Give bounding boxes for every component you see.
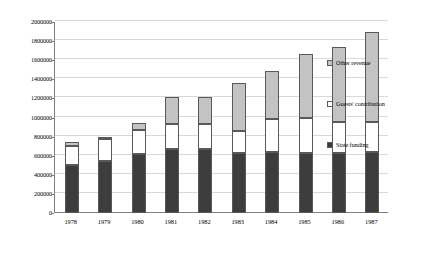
- bar-segment-other-revenue: [365, 32, 379, 123]
- y-axis-tick-mark: [51, 22, 54, 23]
- bar-segment-state-funding: [299, 153, 313, 213]
- bar-group: [98, 22, 112, 213]
- legend-label: Other revenue: [336, 60, 371, 66]
- y-axis-tick-label: 1000000: [0, 114, 52, 120]
- y-axis-tick-label: 1200000: [0, 95, 52, 101]
- y-axis-tick-mark: [51, 137, 54, 138]
- bar-segment-other-revenue: [299, 54, 313, 117]
- y-axis-tick-label: 0: [0, 210, 52, 216]
- bar-segment-guests-contribution: [198, 124, 212, 149]
- gridline: [55, 20, 388, 21]
- bar-group: [232, 22, 246, 213]
- bar-group: [165, 22, 179, 213]
- y-axis-tick-mark: [51, 118, 54, 119]
- bar-segment-state-funding: [65, 165, 79, 213]
- bar-segment-other-revenue: [98, 137, 112, 139]
- bar-group: [198, 22, 212, 213]
- bar-segment-state-funding: [98, 161, 112, 213]
- bar-group: [132, 22, 146, 213]
- legend-item: Other revenue: [327, 60, 371, 66]
- y-axis-tick-label: 200000: [0, 191, 52, 197]
- bar-segment-state-funding: [165, 149, 179, 213]
- y-axis-tick-mark: [51, 175, 54, 176]
- bar-segment-state-funding: [198, 149, 212, 213]
- y-axis-tick-label: 600000: [0, 153, 52, 159]
- stacked-bar-chart: 0200000400000600000800000100000012000001…: [0, 0, 438, 253]
- bar-segment-guests-contribution: [65, 146, 79, 165]
- bar-group: [365, 22, 379, 213]
- y-axis-tick-mark: [51, 156, 54, 157]
- legend-swatch-icon: [327, 142, 333, 148]
- bar-segment-guests-contribution: [332, 122, 346, 153]
- bars-layer: [55, 22, 388, 213]
- y-axis-tick-label: 1400000: [0, 76, 52, 82]
- y-axis-tick-mark: [51, 79, 54, 80]
- y-axis-tick-mark: [51, 60, 54, 61]
- x-axis-tick-label: 1983: [221, 219, 254, 225]
- x-axis-tick-label: 1981: [154, 219, 187, 225]
- x-axis-tick-label: 1985: [288, 219, 321, 225]
- legend-item: State funding: [327, 142, 369, 148]
- bar-segment-other-revenue: [198, 97, 212, 123]
- legend-label: Guests' contribution: [336, 101, 385, 107]
- x-axis-tick-label: 1984: [254, 219, 287, 225]
- x-axis-tick-label: 1987: [355, 219, 388, 225]
- bar-segment-guests-contribution: [232, 131, 246, 153]
- y-axis-tick-label: 800000: [0, 133, 52, 139]
- y-axis-tick-mark: [51, 194, 54, 195]
- x-axis-tick-label: 1980: [121, 219, 154, 225]
- bar-segment-guests-contribution: [165, 124, 179, 149]
- bar-segment-state-funding: [365, 152, 379, 213]
- x-axis-tick-label: 1986: [321, 219, 354, 225]
- bar-segment-other-revenue: [65, 142, 79, 146]
- y-axis-tick-label: 2000000: [0, 19, 52, 25]
- legend-swatch-icon: [327, 60, 333, 66]
- bar-group: [265, 22, 279, 213]
- y-axis-tick-mark: [51, 213, 54, 214]
- bar-segment-state-funding: [132, 154, 146, 213]
- y-axis-tick-label: 1600000: [0, 57, 52, 63]
- bar-segment-other-revenue: [165, 97, 179, 123]
- bar-group: [65, 22, 79, 213]
- bar-segment-state-funding: [232, 153, 246, 213]
- x-axis-tick-label: 1979: [87, 219, 120, 225]
- bar-segment-guests-contribution: [265, 119, 279, 151]
- y-axis-tick-mark: [51, 41, 54, 42]
- bar-segment-guests-contribution: [132, 130, 146, 154]
- y-axis-tick-label: 400000: [0, 172, 52, 178]
- bar-group: [332, 22, 346, 213]
- x-axis-tick-label: 1978: [54, 219, 87, 225]
- bar-segment-guests-contribution: [98, 139, 112, 161]
- bar-segment-other-revenue: [132, 123, 146, 130]
- bar-segment-other-revenue: [265, 71, 279, 120]
- x-axis-tick-label: 1982: [188, 219, 221, 225]
- bar-segment-state-funding: [265, 152, 279, 213]
- bar-segment-state-funding: [332, 153, 346, 213]
- y-axis-tick-mark: [51, 98, 54, 99]
- y-axis-tick-label: 1800000: [0, 38, 52, 44]
- bar-segment-guests-contribution: [299, 118, 313, 153]
- bar-group: [299, 22, 313, 213]
- legend-label: State funding: [336, 142, 369, 148]
- legend-item: Guests' contribution: [327, 101, 385, 107]
- legend-swatch-icon: [327, 101, 333, 107]
- bar-segment-other-revenue: [232, 83, 246, 131]
